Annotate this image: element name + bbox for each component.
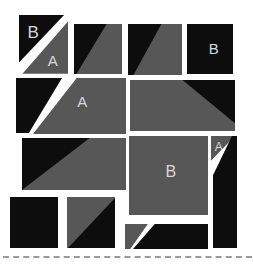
top-hst-3 bbox=[128, 24, 182, 75]
bottom-hst bbox=[67, 197, 115, 248]
piece-label-b: B bbox=[166, 164, 177, 180]
row3-left-dark-triangle bbox=[22, 138, 126, 190]
bottom-hst-dark-triangle bbox=[67, 197, 115, 248]
piece-label-b: B bbox=[28, 23, 39, 40]
row2-right-rect bbox=[130, 80, 235, 131]
quilt-assembly-diagram: B A B A B A bbox=[0, 0, 253, 266]
top-hst-2-dark-triangle bbox=[74, 24, 122, 74]
cut-line bbox=[3, 256, 252, 258]
center-square-gray: B bbox=[129, 136, 208, 215]
row3-left-rect bbox=[22, 138, 126, 190]
top-hst-3-dark-triangle bbox=[128, 24, 182, 75]
piece-label-a: A bbox=[77, 93, 87, 108]
piece-label-a: A bbox=[48, 53, 58, 68]
piece-label-a: A bbox=[215, 141, 223, 153]
top-right-square-dark: B bbox=[187, 24, 233, 74]
piece-label-b: B bbox=[209, 41, 219, 56]
row2-right-dark-triangle bbox=[130, 80, 235, 131]
top-hst-2 bbox=[74, 24, 122, 74]
bottom-left-square-dark bbox=[10, 197, 58, 248]
